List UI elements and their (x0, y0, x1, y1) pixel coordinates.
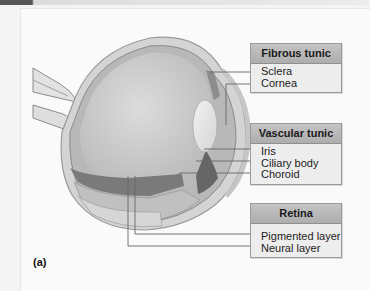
lens (193, 100, 217, 152)
group-title: Fibrous tunic (251, 44, 341, 64)
label-box-fibrous-tunic: Fibrous tunic Sclera Cornea (250, 43, 342, 93)
label-neural-layer: Neural layer (261, 243, 341, 255)
label-iris: Iris (261, 146, 341, 158)
label-pigmented-layer: Pigmented layer (261, 231, 341, 243)
group-title: Vascular tunic (251, 124, 341, 144)
group-title: Retina (251, 204, 341, 224)
label-choroid: Choroid (261, 169, 341, 181)
figure-label: (a) (33, 256, 46, 268)
label-cornea: Cornea (261, 78, 341, 90)
label-box-vascular-tunic: Vascular tunic Iris Ciliary body Choroid (250, 123, 342, 185)
label-sclera: Sclera (261, 66, 341, 78)
label-box-retina: Retina Pigmented layer Neural layer (250, 203, 342, 258)
